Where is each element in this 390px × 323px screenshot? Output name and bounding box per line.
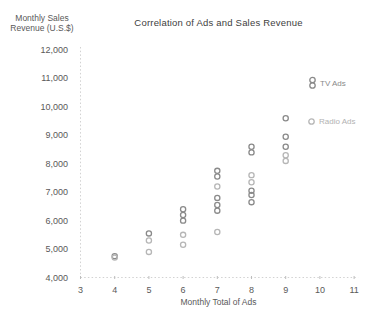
- legend-label-tv-ads: TV Ads: [320, 79, 346, 88]
- x-tick-label: 3: [78, 285, 83, 295]
- y-tick-label: 4,000: [45, 273, 68, 283]
- scatter-chart: Monthly Sales Revenue (U.S.$) Correlatio…: [0, 0, 390, 323]
- data-point-tv-ads: [215, 168, 220, 173]
- data-point-tv-ads: [283, 116, 288, 121]
- legend-item-radio-ads: Radio Ads: [306, 115, 355, 127]
- y-tick-label: 9,000: [45, 130, 68, 140]
- y-tick-label: 5,000: [45, 244, 68, 254]
- data-point-radio-ads: [181, 242, 186, 247]
- x-axis-title: Monthly Total of Ads: [80, 297, 357, 307]
- data-point-radio-ads: [146, 249, 151, 254]
- x-tick-label: 4: [112, 285, 117, 295]
- x-tick-label: 5: [146, 285, 151, 295]
- y-tick-label: 12,000: [40, 45, 68, 55]
- data-point-radio-ads: [146, 238, 151, 243]
- x-tick-label: 7: [215, 285, 220, 295]
- data-point-radio-ads: [249, 180, 254, 185]
- data-point-tv-ads: [249, 200, 254, 205]
- x-tick-label: 8: [249, 285, 254, 295]
- data-point-radio-ads: [215, 229, 220, 234]
- data-point-radio-ads: [181, 232, 186, 237]
- data-point-tv-ads: [146, 231, 151, 236]
- y-tick-label: 10,000: [40, 102, 68, 112]
- x-tick-label: 9: [283, 285, 288, 295]
- x-tick-label: 6: [181, 285, 186, 295]
- data-point-tv-ads: [249, 150, 254, 155]
- legend-item-tv-ads: TV Ads: [307, 76, 346, 90]
- data-point-tv-ads: [215, 208, 220, 213]
- y-tick-label: 11,000: [41, 73, 68, 83]
- legend-label-radio-ads: Radio Ads: [319, 117, 355, 126]
- tv-ads-marker-icon: [307, 76, 317, 90]
- data-point-tv-ads: [249, 144, 254, 149]
- data-point-tv-ads: [215, 202, 220, 207]
- plot-area: 4,0005,0006,0007,0008,0009,00010,00011,0…: [0, 0, 390, 323]
- y-tick-label: 6,000: [45, 216, 68, 226]
- y-tick-label: 8,000: [45, 159, 68, 169]
- data-point-radio-ads: [283, 153, 288, 158]
- radio-ads-marker-icon: [306, 115, 316, 127]
- data-point-tv-ads: [215, 174, 220, 179]
- data-point-tv-ads: [181, 212, 186, 217]
- data-point-radio-ads: [283, 158, 288, 163]
- data-point-tv-ads: [181, 218, 186, 223]
- data-point-tv-ads: [283, 144, 288, 149]
- y-tick-label: 7,000: [45, 187, 68, 197]
- x-tick-label: 11: [349, 285, 358, 295]
- data-point-radio-ads: [215, 184, 220, 189]
- data-point-radio-ads: [249, 173, 254, 178]
- data-point-tv-ads: [283, 134, 288, 139]
- data-point-tv-ads: [181, 207, 186, 212]
- x-tick-label: 10: [315, 285, 325, 295]
- data-point-tv-ads: [215, 195, 220, 200]
